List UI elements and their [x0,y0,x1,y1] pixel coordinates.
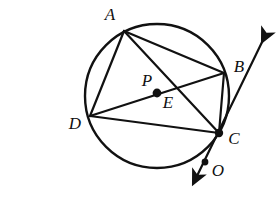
point-label-B: B [234,57,245,76]
chord-A-B [124,31,224,73]
chord-D-C [90,116,219,133]
tangent-ray-through-C [196,36,265,178]
geometry-canvas: A B C D P E O [0,0,278,198]
point-label-C: C [228,129,240,148]
point-label-E: E [162,93,174,112]
point-dot-C [215,129,223,137]
chord-A-C [124,31,219,133]
point-dot-P [153,89,162,98]
point-label-D: D [68,114,82,133]
point-label-O: O [212,161,224,180]
point-label-P: P [141,71,152,90]
geometry-figure: A B C D P E O [0,0,278,198]
point-label-A: A [104,5,116,24]
point-dot-O [202,159,209,166]
